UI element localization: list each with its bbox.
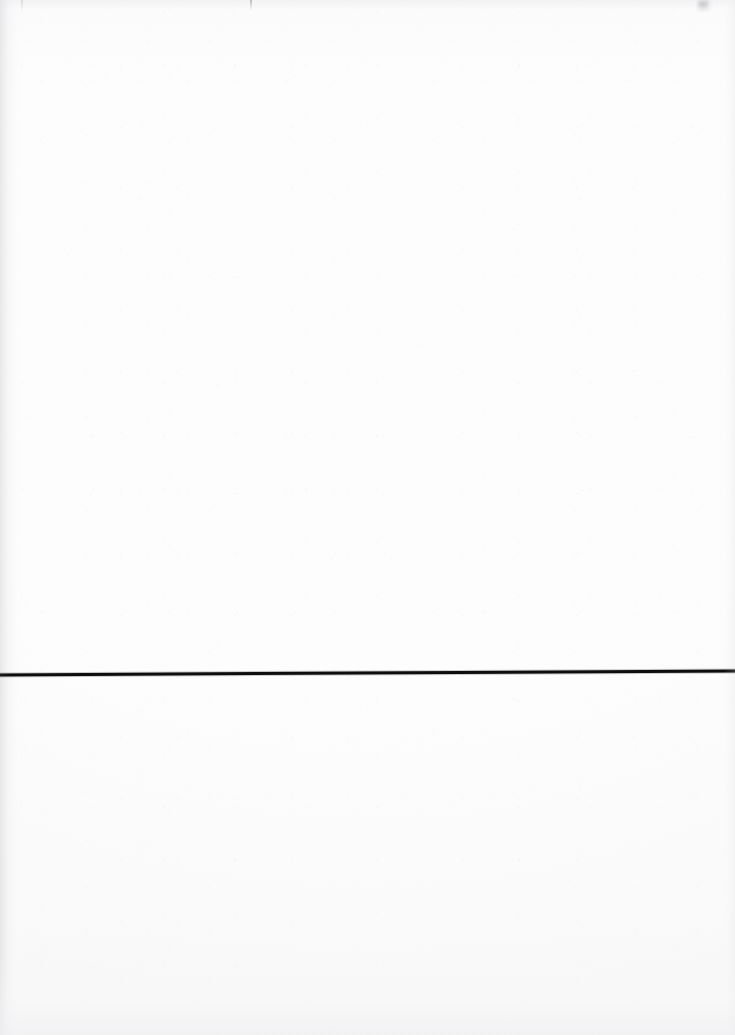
paper-background [0, 0, 735, 1035]
scanned-page [0, 0, 735, 1035]
